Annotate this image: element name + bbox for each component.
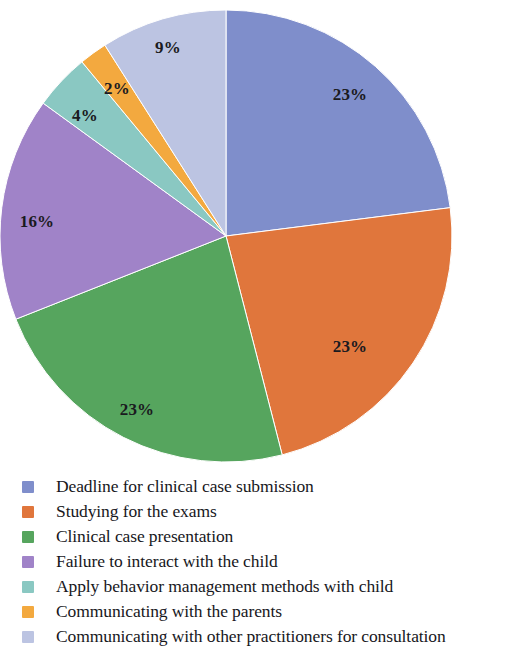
- pie-slice-value-label: 4%: [72, 106, 98, 126]
- legend-item[interactable]: Clinical case presentation: [22, 524, 526, 549]
- legend-item[interactable]: Communicating with other practitioners f…: [22, 624, 526, 649]
- legend-item-label: Communicating with other practitioners f…: [56, 628, 446, 646]
- legend-item[interactable]: Communicating with the parents: [22, 599, 526, 624]
- legend-item-label: Studying for the exams: [56, 503, 217, 521]
- legend-color-swatch: [22, 556, 34, 568]
- legend-color-swatch: [22, 481, 34, 493]
- pie-slice-value-label: 23%: [333, 337, 368, 357]
- legend-color-swatch: [22, 606, 34, 618]
- pie-slice[interactable]: [226, 10, 450, 236]
- legend-item-label: Deadline for clinical case submission: [56, 478, 314, 496]
- legend-item[interactable]: Failure to interact with the child: [22, 549, 526, 574]
- pie-slice-value-label: 23%: [333, 85, 368, 105]
- legend-item-label: Communicating with the parents: [56, 603, 282, 621]
- legend-color-swatch: [22, 506, 34, 518]
- legend-item[interactable]: Apply behavior management methods with c…: [22, 574, 526, 599]
- pie-slice-group: [0, 10, 452, 462]
- pie-plot-area: 23%23%23%16%4%2%9%: [0, 0, 526, 470]
- pie-slice-value-label: 16%: [20, 212, 55, 232]
- legend-item-label: Failure to interact with the child: [56, 553, 278, 571]
- legend-item-label: Clinical case presentation: [56, 528, 233, 546]
- pie-slice-value-label: 9%: [155, 38, 181, 58]
- pie-slice-value-label: 23%: [120, 400, 155, 420]
- legend-item[interactable]: Deadline for clinical case submission: [22, 474, 526, 499]
- pie-svg: [0, 0, 526, 470]
- pie-slice-value-label: 2%: [104, 79, 130, 99]
- pie-chart-figure: 23%23%23%16%4%2%9% Deadline for clinical…: [0, 0, 526, 660]
- chart-legend: Deadline for clinical case submissionStu…: [22, 474, 526, 649]
- legend-item[interactable]: Studying for the exams: [22, 499, 526, 524]
- legend-color-swatch: [22, 631, 34, 643]
- legend-color-swatch: [22, 581, 34, 593]
- legend-item-label: Apply behavior management methods with c…: [56, 578, 393, 596]
- legend-color-swatch: [22, 531, 34, 543]
